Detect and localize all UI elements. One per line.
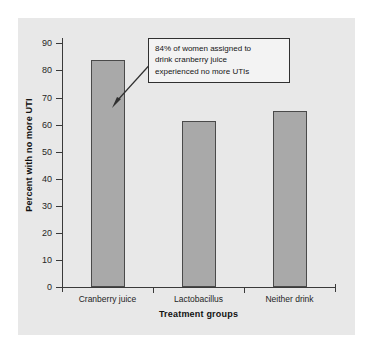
x-axis-line <box>62 287 335 288</box>
y-tick-label-20: 20 <box>26 229 52 238</box>
annotation-callout: 84% of women assigned to drink cranberry… <box>148 38 290 83</box>
y-tick-label-90: 90 <box>26 39 52 48</box>
y-tick-80 <box>56 70 62 71</box>
figure: 0102030405060708090 Cranberry juiceLacto… <box>0 0 378 357</box>
annotation-line-3: experienced no more UTIs <box>155 66 283 77</box>
y-tick-label-0: 0 <box>26 283 52 292</box>
x-end-tick-left <box>62 284 63 292</box>
y-tick-90 <box>56 43 62 44</box>
x-label-neither-drink: Neither drink <box>244 295 335 304</box>
x-separator-tick-2 <box>244 288 245 293</box>
y-tick-label-10: 10 <box>26 256 52 265</box>
y-tick-30 <box>56 206 62 207</box>
y-tick-70 <box>56 98 62 99</box>
bar-lactobacillus <box>182 121 216 287</box>
y-axis-title: Percent with no more UTI <box>24 90 34 220</box>
x-axis-title: Treatment groups <box>62 309 335 319</box>
x-label-cranberry-juice: Cranberry juice <box>62 295 153 304</box>
annotation-line-2: drink cranberry juice <box>155 54 283 65</box>
annotation-line-1: 84% of women assigned to <box>155 43 283 54</box>
bar-neither-drink <box>273 111 307 287</box>
y-tick-50 <box>56 152 62 153</box>
y-axis-line <box>62 38 63 288</box>
y-tick-60 <box>56 125 62 126</box>
y-tick-40 <box>56 179 62 180</box>
x-separator-tick-1 <box>153 288 154 293</box>
x-end-tick-right <box>335 284 336 292</box>
y-tick-label-80: 80 <box>26 66 52 75</box>
y-tick-10 <box>56 260 62 261</box>
x-label-lactobacillus: Lactobacillus <box>153 295 244 304</box>
y-tick-20 <box>56 233 62 234</box>
